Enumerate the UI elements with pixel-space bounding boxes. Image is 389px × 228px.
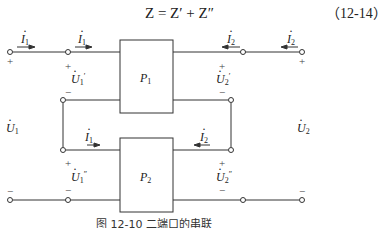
voltage-u1-label: U1: [6, 122, 19, 136]
circuit-figure: Z = Z′ + Z″ （12-14） P1 P2 I1 I1 I1 I2 I2…: [0, 0, 389, 228]
figure-caption: 图 12-10 二端口的串联: [96, 219, 212, 228]
voltage-u1-prime-label: U1′: [71, 73, 85, 87]
current-i2-inner-top-label: I2: [227, 33, 235, 47]
terminal-p2-port1-minus: [66, 198, 71, 203]
terminal-port1-plus: [8, 50, 13, 55]
terminal-port1-minus: [8, 198, 13, 203]
equation-number: （12-14）: [326, 7, 387, 21]
terminal-port2-minus: [300, 198, 305, 203]
current-i1-outer-label: I1: [21, 33, 29, 47]
circuit-wiring: [0, 0, 389, 228]
terminal-p2-port1-plus: [61, 148, 66, 153]
terminal-p2-port2-plus: [229, 148, 234, 153]
voltage-u1-dprime-label: U1″: [71, 171, 87, 185]
arrow-head-right-icon: [86, 45, 92, 49]
block-p2-label: P2: [140, 171, 151, 185]
sign-u2-dprime-minus: −: [219, 185, 225, 196]
sign-port1-minus: −: [7, 186, 13, 197]
sign-u1-prime-plus: +: [65, 61, 71, 72]
sign-u1-dprime-plus: +: [65, 158, 71, 169]
equation: Z = Z′ + Z″: [145, 6, 214, 21]
terminal-p2-port2-minus: [241, 198, 246, 203]
terminal-p1-port1-minus: [61, 98, 66, 103]
sign-u1-prime-minus: −: [65, 87, 71, 98]
sign-u1-dprime-minus: −: [65, 185, 71, 196]
sign-port2-minus: −: [299, 186, 305, 197]
voltage-u2-dprime-label: U2″: [216, 171, 232, 185]
terminal-p1-port1-plus: [66, 50, 71, 55]
arrow-head-right-icon: [94, 143, 100, 147]
sign-port1-plus: +: [7, 56, 13, 67]
terminal-port2-plus: [300, 50, 305, 55]
voltage-u2-label: U2: [297, 122, 310, 136]
voltage-u2-prime-label: U2′: [216, 73, 230, 87]
current-i2-inner-bottom-label: I2: [200, 131, 208, 145]
block-p1-label: P1: [140, 72, 151, 86]
terminal-p1-port2-minus: [229, 98, 234, 103]
sign-port2-plus: +: [299, 56, 305, 67]
sign-u2-prime-minus: −: [219, 87, 225, 98]
terminal-p1-port2-plus: [241, 50, 246, 55]
current-i1-inner-top-label: I1: [78, 33, 86, 47]
current-i1-inner-bottom-label: I1: [85, 131, 93, 145]
current-i2-outer-label: I2: [287, 33, 295, 47]
arrow-head-right-icon: [29, 45, 35, 49]
